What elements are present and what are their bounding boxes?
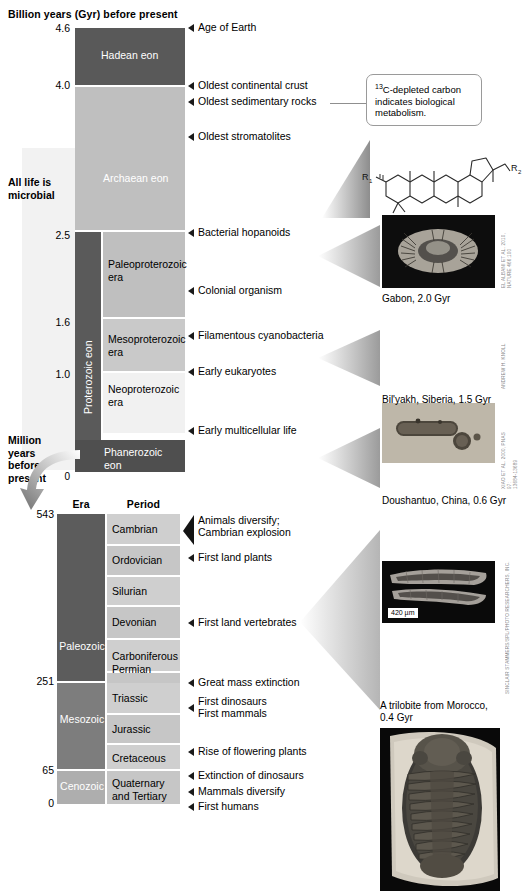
axis-label-1-0: 1.0: [28, 368, 70, 380]
era-block-paleozoic: [57, 514, 105, 681]
event-label-bacterial-hopanoids: Bacterial hopanoids: [198, 226, 290, 239]
period-label-cambrian: Cambrian: [112, 523, 158, 536]
svg-text:1: 1: [369, 178, 373, 184]
event-label-rise-of-flowering-plants: Rise of flowering plants: [198, 745, 307, 758]
event-label-animals-diversify: Animals diversify;: [198, 514, 280, 527]
era-label-paleoproterozoic: Paleoproterozoic era: [108, 258, 187, 283]
connector-wedge-doushantuo: [318, 428, 380, 488]
event-label-first-dinosaurs: First dinosaurs: [198, 695, 267, 708]
event-marker-oldest-sedimentary-rocks: [188, 98, 194, 106]
photo-credit-bilyakh: ANDREW H. KNOLL: [501, 331, 507, 389]
event-label-age-of-earth: Age of Earth: [198, 21, 256, 34]
photo-caption-gabon: Gabon, 2.0 Gyr: [382, 293, 450, 305]
column-header-era: Era: [57, 498, 105, 510]
photo-credit-doushantuo: XIAO ET AL. 2000, PNAS 97: 13684-13689: [501, 429, 519, 489]
photo-gabon-fossil: [382, 215, 495, 288]
period-label-permian: Permian: [112, 663, 151, 676]
event-marker-filamentous-cyanobacteria: [188, 332, 194, 340]
era-label-paleozoic: Paleozoic: [59, 640, 105, 653]
microbial-note: All life is microbial: [8, 176, 74, 201]
event-label-first-land-plants: First land plants: [198, 551, 272, 564]
svg-text:R: R: [362, 172, 369, 182]
photo-scalebar-doushantuo: 420 µm: [388, 608, 418, 618]
period-label-silurian: Silurian: [112, 585, 147, 598]
event-marker-first-land-plants: [188, 554, 194, 562]
photo-doushantuo-embryo: 420 µm: [382, 561, 495, 623]
hopanoid-molecule-diagram: R 1 R 2: [360, 138, 526, 220]
event-marker-mammals-diversify: [188, 788, 194, 796]
axis-label-543: 543: [14, 508, 54, 520]
event-label-filamentous-cyanobacteria: Filamentous cyanobacteria: [198, 329, 323, 342]
photo-credit-gabon: EL ALBANI ET AL. 2010, NATURE 466:100: [501, 216, 513, 288]
period-label-cretaceous: Cretaceous: [112, 752, 166, 765]
eon-label-hadean: Hadean eon: [101, 49, 158, 62]
axis-label-0-myr: 0: [14, 797, 54, 809]
event-marker-oldest-continental-crust: [188, 82, 194, 90]
event-marker-colonial-organism: [188, 287, 194, 295]
event-marker-age-of-earth: [188, 24, 194, 32]
event-marker-early-eukaryotes: [188, 368, 194, 376]
photo-bilyakh-microfossil: [382, 403, 495, 463]
event-marker-extinction-of-dinosaurs: [188, 772, 194, 780]
period-label-devonian: Devonian: [112, 616, 156, 629]
photo-credit-trilobite: SINCLAIR STAMMERS/SPL/PHOTO RESEARCHERS,…: [505, 534, 511, 694]
era-label-mesozoic: Mesozoic: [59, 713, 105, 726]
callout-text: C-depleted carbon indicates biological m…: [375, 84, 461, 118]
era-label-neoproterozoic: Neoproterozoic era: [108, 383, 179, 408]
period-label-triassic: Triassic: [112, 692, 148, 705]
eon-label-phanerozoic: Phanerozoic eon: [104, 446, 162, 471]
event-marker-cambrian-explosion: [183, 515, 195, 545]
event-label-first-humans: First humans: [198, 800, 259, 813]
connector-wedge-gabon: [318, 225, 380, 287]
event-label-first-land-vertebrates: First land vertebrates: [198, 616, 297, 629]
eon-label-archaean: Archaean eon: [103, 172, 168, 185]
event-marker-bacterial-hopanoids: [188, 229, 194, 237]
event-label-early-multicellular-life: Early multicellular life: [198, 424, 297, 437]
axis-label-4-0: 4.0: [28, 79, 70, 91]
callout-box: 13C-depleted carbon indicates biological…: [366, 74, 482, 126]
axis-label-251: 251: [14, 675, 54, 687]
event-label-oldest-sedimentary-rocks: Oldest sedimentary rocks: [198, 95, 316, 108]
event-label-great-mass-extinction: Great mass extinction: [198, 676, 300, 689]
connector-wedge-trilobite: [300, 530, 380, 710]
event-label-mammals-diversify: Mammals diversify: [198, 785, 285, 798]
photo-caption-doushantuo: Doushantuo, China, 0.6 Gyr: [382, 495, 506, 507]
era-label-cenozoic: Cenozoic: [59, 780, 105, 793]
event-label-first-mammals: First mammals: [198, 707, 267, 720]
svg-text:2: 2: [518, 169, 522, 175]
event-label-oldest-stromatolites: Oldest stromatolites: [198, 130, 291, 143]
event-marker-rise-of-flowering-plants: [188, 748, 194, 756]
connector-wedge-bilyakh: [318, 330, 380, 386]
axis-label-65: 65: [14, 764, 54, 776]
axis-label-1-6: 1.6: [28, 316, 70, 328]
eon-label-proterozoic: Proterozoic eon: [82, 290, 94, 414]
event-label-oldest-continental-crust: Oldest continental crust: [198, 79, 308, 92]
event-marker-first-dinosaurs-mammals: [188, 704, 194, 712]
photo-trilobite: [380, 728, 500, 891]
period-label-carboniferous: Carboniferous: [112, 650, 178, 663]
photo-caption-bilyakh: Bil'yakh, Siberia, 1.5 Gyr: [382, 394, 491, 406]
photo-caption-trilobite: A trilobite from Morocco, 0.4 Gyr: [380, 700, 488, 724]
eon-block-archaean: [75, 87, 185, 230]
axis-label-2-5: 2.5: [28, 229, 70, 241]
era-label-mesoproterozoic: Mesoproterozoic era: [108, 333, 186, 358]
svg-text:R: R: [511, 163, 518, 173]
period-label-quaternary-tertiary: Quaternary and Tertiary: [112, 777, 167, 802]
top-axis-title: Billion years (Gyr) before present: [8, 8, 178, 20]
period-label-jurassic: Jurassic: [112, 723, 151, 736]
event-marker-first-land-vertebrates: [188, 619, 194, 627]
era-block-mesozoic: [57, 683, 105, 769]
period-label-ordovician: Ordovician: [112, 554, 162, 567]
event-label-cambrian-explosion: Cambrian explosion: [198, 526, 291, 539]
event-label-colonial-organism: Colonial organism: [198, 284, 282, 297]
axis-label-4-6: 4.6: [28, 22, 70, 34]
event-marker-oldest-stromatolites: [188, 133, 194, 141]
callout-superscript: 13: [375, 83, 383, 90]
event-marker-great-mass-extinction: [188, 679, 194, 687]
event-marker-early-multicellular-life: [188, 427, 194, 435]
event-label-early-eukaryotes: Early eukaryotes: [198, 365, 276, 378]
event-label-extinction-of-dinosaurs: Extinction of dinosaurs: [198, 769, 304, 782]
event-marker-first-humans: [188, 803, 194, 811]
column-header-period: Period: [107, 498, 180, 510]
